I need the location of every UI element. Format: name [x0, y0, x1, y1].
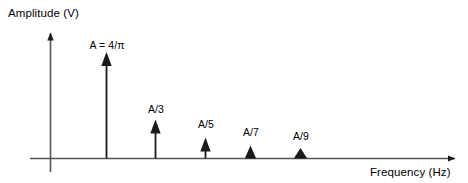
spectral-head-harmonic-7 — [245, 146, 256, 159]
spectrum-plot — [0, 0, 468, 183]
spectral-line-harmonic-5 — [200, 138, 210, 159]
spectral-head-fundamental — [101, 52, 111, 66]
line-spectrum-figure: Amplitude (V) Frequency (Hz) A = 4/π A/3… — [0, 0, 468, 183]
data-label-fundamental: A = 4/π — [89, 39, 124, 52]
spectral-line-harmonic-7 — [245, 146, 256, 159]
data-label-harmonic-9: A/9 — [293, 130, 309, 143]
data-label-harmonic-5: A/5 — [198, 118, 214, 131]
spectral-head-harmonic-3 — [150, 120, 160, 134]
spectral-line-harmonic-3 — [150, 120, 160, 159]
axes-group — [30, 33, 455, 172]
data-label-harmonic-3: A/3 — [148, 103, 164, 116]
data-label-harmonic-7: A/7 — [243, 126, 259, 139]
spectral-line-fundamental — [101, 52, 111, 159]
spectral-head-harmonic-9 — [294, 148, 307, 159]
y-axis-title: Amplitude (V) — [8, 7, 79, 20]
spectral-head-harmonic-5 — [200, 138, 210, 152]
x-axis-title: Frequency (Hz) — [370, 166, 451, 179]
spectral-line-harmonic-9 — [294, 148, 307, 159]
